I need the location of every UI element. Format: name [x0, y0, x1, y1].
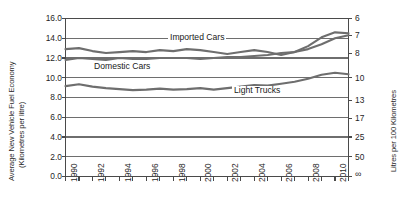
- series-line-light-trucks: [66, 73, 349, 90]
- series-label-domestic-cars: Domestic Cars: [92, 62, 152, 71]
- series-label-light-trucks: Light Trucks: [232, 86, 282, 95]
- fuel-economy-line-chart: Average New Vehicle Fuel Economy (Kilome…: [0, 0, 408, 221]
- series-label-imported-cars: Imported Cars: [168, 33, 226, 42]
